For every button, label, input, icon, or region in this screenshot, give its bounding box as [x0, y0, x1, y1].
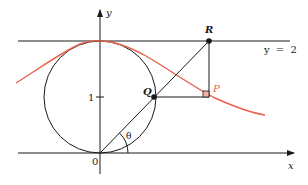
witch-of-agnesi-diagram: y x 0 1 y = 2 R Q P θ — [0, 0, 308, 185]
point-P-label: P — [212, 83, 220, 94]
agnesi-curve — [16, 41, 265, 115]
y-tick-1-label: 1 — [88, 92, 94, 103]
point-Q — [151, 94, 157, 100]
right-angle-marker — [203, 91, 209, 97]
x-axis-label: x — [288, 160, 294, 171]
point-R — [206, 38, 212, 44]
origin-label: 0 — [92, 156, 98, 167]
point-R-label: R — [204, 24, 213, 35]
theta-label: θ — [126, 131, 131, 141]
y-axis-label: y — [105, 7, 112, 18]
line-y2-label: y = 2 — [263, 44, 298, 55]
point-Q-label: Q — [143, 86, 152, 97]
